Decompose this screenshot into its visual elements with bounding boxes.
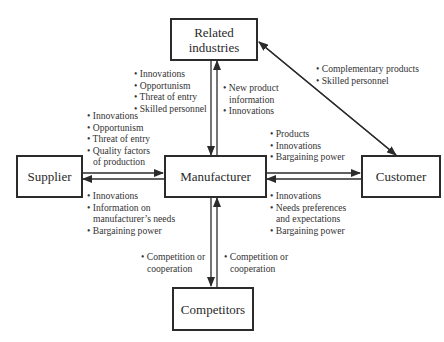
node-label: Manufacturer	[180, 169, 251, 184]
node-label: Related	[194, 25, 234, 40]
label-manufacturer-to-related: • New product information • Innovations	[223, 82, 279, 117]
label-customer-to-manufacturer: • Innovations • Needs preferences and ex…	[270, 190, 346, 236]
node-label: Competitors	[181, 302, 245, 317]
node-label: Customer	[376, 169, 427, 184]
label-manufacturer-to-competitors: • Competition or cooperation	[141, 251, 205, 274]
node-competitors: Competitors	[172, 287, 254, 331]
node-related-industries: Related industries	[170, 18, 258, 61]
label-manufacturer-to-customer: • Products • Innovations • Bargaining po…	[270, 128, 345, 163]
label-related-to-manufacturer: • Innovations • Opportunism • Threat of …	[134, 68, 207, 114]
node-label: industries	[189, 40, 240, 55]
label-competitors-to-manufacturer: • Competition or cooperation	[224, 251, 288, 274]
label-related-customer: • Complementary products • Skilled perso…	[316, 63, 419, 86]
label-supplier-to-manufacturer: • Innovations • Opportunism • Threat of …	[87, 110, 150, 168]
label-manufacturer-to-supplier: • Innovations • Information on manufactu…	[87, 190, 175, 236]
node-customer: Customer	[361, 155, 441, 198]
node-label: Supplier	[27, 169, 71, 184]
node-supplier: Supplier	[16, 155, 83, 198]
node-manufacturer: Manufacturer	[164, 155, 267, 198]
